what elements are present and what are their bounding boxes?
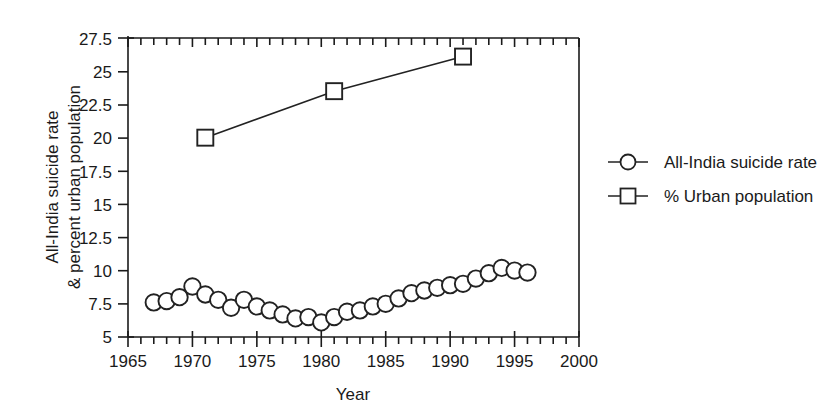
y-tick-label: 5 — [103, 328, 112, 347]
y-tick-label: 27.5 — [79, 30, 112, 49]
x-axis-ticks — [128, 38, 579, 347]
series-urban-population — [197, 49, 471, 146]
legend-entry-urban-population[interactable]: % Urban population — [608, 187, 813, 206]
y-tick-label: 22.5 — [79, 96, 112, 115]
legend-label: All-India suicide rate — [664, 153, 817, 172]
x-axis-title: Year — [336, 385, 371, 404]
x-tick-label: 1970 — [174, 352, 212, 371]
urban-population-marker — [326, 83, 342, 99]
chart-figure: All-India suicide rate & percent urban p… — [0, 0, 834, 418]
suicide-rate-marker — [519, 264, 535, 280]
x-axis-tick-labels: 19651970197519801985199019952000 — [109, 352, 598, 371]
y-axis-title: All-India suicide rate & percent urban p… — [43, 85, 84, 289]
legend-label: % Urban population — [664, 187, 813, 206]
legend-marker-circle-icon — [621, 155, 636, 170]
y-tick-label: 25 — [93, 63, 112, 82]
urban-population-marker — [197, 130, 213, 146]
urban-population-marker — [455, 49, 471, 65]
y-tick-label: 7.5 — [88, 295, 112, 314]
series-suicide-rate — [146, 260, 536, 331]
y-axis-title-line1: All-India suicide rate — [43, 110, 62, 263]
chart-svg: All-India suicide rate & percent urban p… — [0, 0, 834, 418]
y-tick-label: 15 — [93, 196, 112, 215]
x-tick-label: 1980 — [302, 352, 340, 371]
y-tick-label: 10 — [93, 262, 112, 281]
x-tick-label: 1990 — [431, 352, 469, 371]
x-tick-label: 1995 — [496, 352, 534, 371]
legend-marker-square-icon — [621, 189, 636, 204]
x-tick-label: 1965 — [109, 352, 147, 371]
legend-entry-suicide-rate[interactable]: All-India suicide rate — [608, 153, 817, 172]
chart-legend: All-India suicide rate % Urban populatio… — [608, 153, 817, 206]
x-tick-label: 1985 — [367, 352, 405, 371]
chart-canvas: All-India suicide rate & percent urban p… — [0, 0, 834, 418]
y-axis-ticks — [118, 38, 134, 337]
y-tick-label: 12.5 — [79, 229, 112, 248]
y-axis-title-line2: & percent urban population — [65, 85, 84, 289]
x-tick-label: 2000 — [560, 352, 598, 371]
y-tick-label: 20 — [93, 129, 112, 148]
y-tick-label: 17.5 — [79, 163, 112, 182]
x-tick-label: 1975 — [238, 352, 276, 371]
